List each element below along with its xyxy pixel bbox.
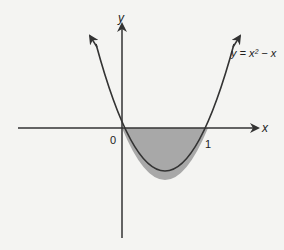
left-arrow <box>90 36 97 47</box>
x-axis-label: x <box>261 121 269 135</box>
y-axis-label: y <box>117 11 125 25</box>
root-label: 1 <box>205 138 211 150</box>
curve-label: y = x² − x <box>230 47 277 59</box>
figure: y = x² − x x y 0 1 <box>0 0 284 250</box>
right-arrow <box>233 36 240 47</box>
parabola-diagram: y = x² − x x y 0 1 <box>0 0 284 250</box>
shaded-area <box>122 128 208 180</box>
origin-label: 0 <box>110 134 116 146</box>
